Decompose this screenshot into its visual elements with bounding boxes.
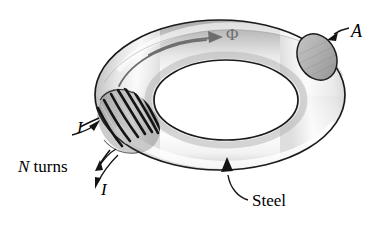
- label-turns-symbol: N: [18, 157, 29, 176]
- torus-hole: [154, 60, 298, 140]
- label-turns-word: turns: [29, 157, 67, 176]
- leader-area: [327, 28, 349, 41]
- label-current-out: I: [101, 181, 107, 198]
- toroid-illustration: [0, 0, 381, 238]
- label-flux-phi: Φ: [226, 26, 238, 43]
- toroid-figure: A Φ I I N turns Steel: [0, 0, 381, 238]
- label-current-in: I: [77, 119, 83, 136]
- label-material-steel: Steel: [252, 192, 286, 209]
- label-area-A: A: [351, 22, 362, 40]
- label-n-turns: N turns: [18, 158, 68, 175]
